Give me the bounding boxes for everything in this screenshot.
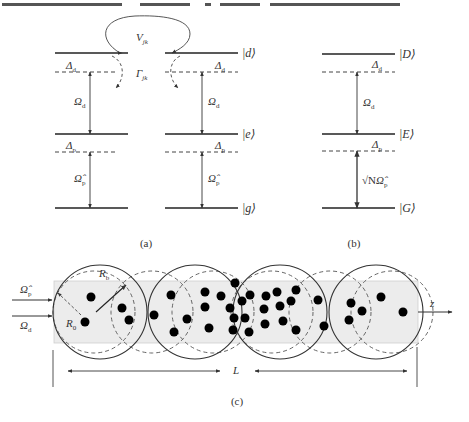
ket-E: |E⟩	[399, 128, 414, 140]
ket-d: |d⟩	[242, 47, 256, 59]
z-axis-label: z	[430, 298, 434, 309]
b-omega-d-label: Ωd	[363, 97, 374, 111]
right-delta-d-label: Δd	[215, 60, 225, 74]
panel-a-caption: (a)	[140, 237, 153, 250]
b-delta-p-label: Δp	[372, 139, 382, 153]
right-omega-d-label: Ωd	[208, 96, 219, 110]
decay-label: Γjk	[136, 68, 147, 82]
length-label: L	[233, 365, 239, 376]
right-omega-p-label: Ω̂p	[208, 173, 219, 187]
left-delta-d-label: Δd	[66, 60, 76, 74]
radius-r0-label: R0	[66, 318, 76, 332]
left-delta-p-label: Δp	[66, 140, 76, 154]
panel-b: (b)	[322, 54, 395, 250]
radius-rb-label: Rb	[99, 268, 109, 282]
panel-b-caption: (b)	[348, 237, 361, 250]
coupling-label: Vjk	[136, 32, 148, 46]
ket-D: |D⟩	[399, 48, 416, 60]
panel-c-caption: (c)	[231, 395, 244, 408]
left-omega-d-label: Ωd	[74, 96, 85, 110]
probe-input-label: Ω̂p	[20, 284, 31, 298]
left-omega-p-label: Ω̂p	[74, 173, 85, 187]
ket-g: |g⟩	[242, 202, 256, 214]
b-collective-coupling-label: √NΩ̂p	[362, 175, 387, 189]
b-delta-d-label: Δd	[372, 59, 382, 73]
coupling-loop-arrow	[106, 16, 190, 53]
drive-input-label: Ωd	[20, 320, 31, 334]
ket-G: |G⟩	[399, 202, 416, 214]
right-delta-p-label: Δp	[215, 140, 225, 154]
panel-c: (c)	[12, 265, 452, 408]
figure: (a) (b)	[0, 0, 469, 422]
ket-e: |e⟩	[242, 128, 255, 140]
panel-a: (a)	[55, 16, 238, 250]
